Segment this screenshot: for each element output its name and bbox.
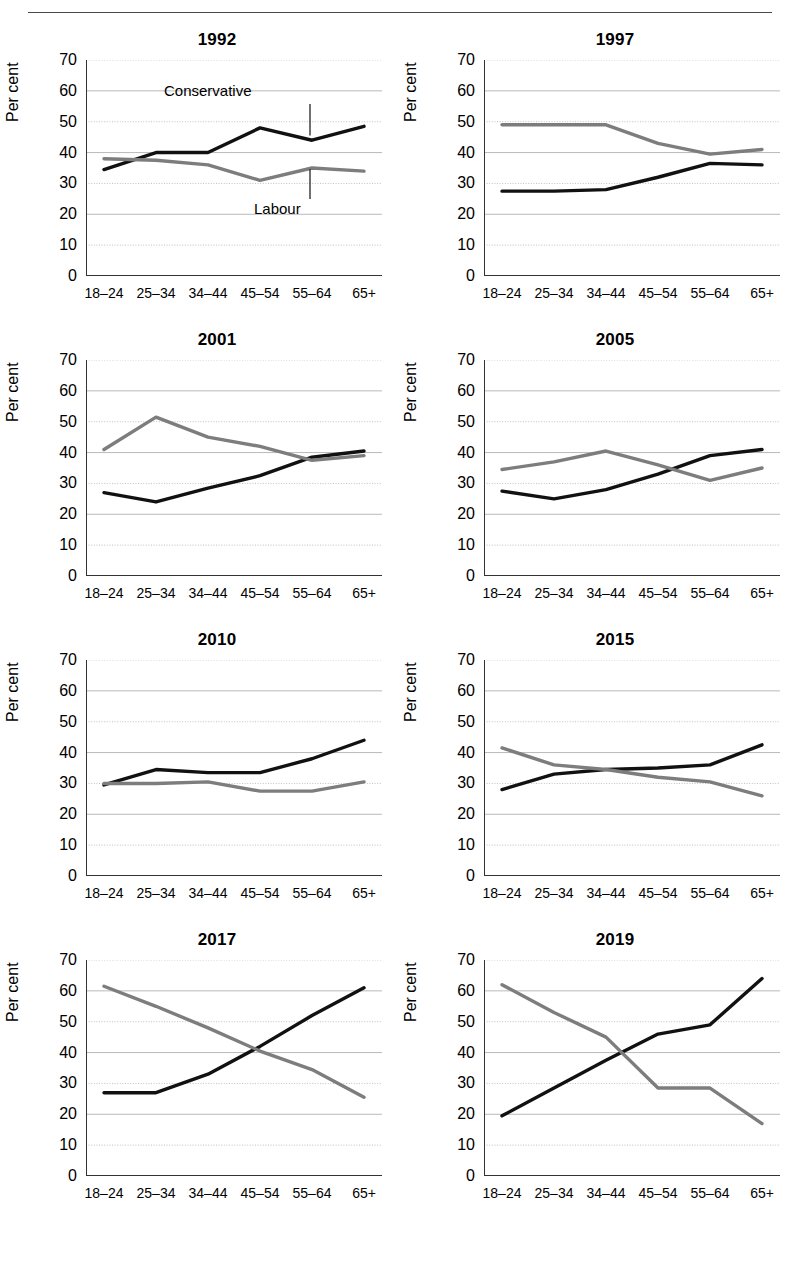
y-tick-label: 30 <box>43 1074 77 1092</box>
y-tick-label: 50 <box>441 1013 475 1031</box>
y-tick-label: 70 <box>43 351 77 369</box>
axis-lines <box>484 960 780 1176</box>
x-tick-label: 34–44 <box>587 885 626 901</box>
chart-page: 1992Per cent01020304050607018–2425–3434–… <box>0 0 796 1274</box>
x-tick-label: 65+ <box>352 285 376 301</box>
plot-svg <box>484 60 780 276</box>
y-tick-label: 0 <box>441 1167 475 1185</box>
series-line-labour <box>104 417 364 460</box>
chart-panel-2019: 2019Per cent01020304050607018–2425–3434–… <box>398 922 796 1222</box>
x-tick-label: 18–24 <box>85 885 124 901</box>
plot-area: 01020304050607018–2425–3434–4445–5455–64… <box>484 660 780 876</box>
y-tick-label: 60 <box>441 982 475 1000</box>
y-tick-label: 10 <box>43 1136 77 1154</box>
series-line-labour <box>502 125 762 154</box>
y-axis-label: Per cent <box>402 1000 420 1022</box>
chart-panel-2015: 2015Per cent01020304050607018–2425–3434–… <box>398 622 796 922</box>
x-tick-label: 25–34 <box>535 585 574 601</box>
y-tick-label: 50 <box>43 413 77 431</box>
x-tick-label: 55–64 <box>293 1185 332 1201</box>
y-tick-label: 10 <box>441 1136 475 1154</box>
y-tick-label: 50 <box>43 113 77 131</box>
y-tick-label: 40 <box>43 1044 77 1062</box>
x-tick-label: 34–44 <box>587 285 626 301</box>
series-annotation-conservative: Conservative <box>164 82 252 99</box>
plot-area: 01020304050607018–2425–3434–4445–5455–64… <box>86 660 382 876</box>
y-axis-label: Per cent <box>4 700 22 722</box>
chart-panel-2017: 2017Per cent01020304050607018–2425–3434–… <box>0 922 398 1222</box>
x-tick-label: 55–64 <box>691 285 730 301</box>
x-tick-label: 65+ <box>750 885 774 901</box>
y-tick-label: 40 <box>43 144 77 162</box>
y-tick-label: 60 <box>43 382 77 400</box>
chart-panel-1997: 1997Per cent01020304050607018–2425–3434–… <box>398 22 796 322</box>
plot-svg <box>484 660 780 876</box>
x-tick-label: 34–44 <box>189 285 228 301</box>
y-tick-label: 20 <box>43 205 77 223</box>
x-tick-label: 25–34 <box>535 1185 574 1201</box>
y-tick-label: 70 <box>43 651 77 669</box>
y-tick-label: 0 <box>441 867 475 885</box>
y-tick-label: 40 <box>441 1044 475 1062</box>
axis-lines <box>484 360 780 576</box>
y-axis-label-text: Per cent <box>4 1000 22 1022</box>
series-annotation-labour: Labour <box>254 200 301 217</box>
panel-title: 2017 <box>0 930 398 950</box>
y-tick-label: 50 <box>43 1013 77 1031</box>
axis-lines <box>86 660 382 876</box>
x-tick-label: 65+ <box>352 585 376 601</box>
chart-panel-2005: 2005Per cent01020304050607018–2425–3434–… <box>398 322 796 622</box>
y-tick-label: 60 <box>43 82 77 100</box>
x-tick-label: 25–34 <box>137 585 176 601</box>
chart-panel-2010: 2010Per cent01020304050607018–2425–3434–… <box>0 622 398 922</box>
series-line-labour <box>104 782 364 791</box>
plot-area: 01020304050607018–2425–3434–4445–5455–64… <box>86 60 382 276</box>
x-tick-label: 55–64 <box>293 885 332 901</box>
y-tick-label: 20 <box>43 1105 77 1123</box>
y-tick-label: 60 <box>441 682 475 700</box>
y-axis-label: Per cent <box>402 100 420 122</box>
plot-svg <box>86 660 382 876</box>
y-tick-label: 20 <box>441 205 475 223</box>
panel-title: 2015 <box>398 630 796 650</box>
x-tick-label: 55–64 <box>691 1185 730 1201</box>
x-tick-label: 34–44 <box>189 885 228 901</box>
y-tick-label: 30 <box>441 774 475 792</box>
x-tick-label: 65+ <box>750 1185 774 1201</box>
x-tick-label: 18–24 <box>483 585 522 601</box>
y-tick-label: 60 <box>441 382 475 400</box>
series-line-conservative <box>502 745 762 790</box>
y-tick-label: 30 <box>43 774 77 792</box>
x-tick-label: 65+ <box>352 885 376 901</box>
plot-area: 01020304050607018–2425–3434–4445–5455–64… <box>86 360 382 576</box>
y-tick-label: 50 <box>441 713 475 731</box>
chart-panel-1992: 1992Per cent01020304050607018–2425–3434–… <box>0 22 398 322</box>
x-tick-label: 18–24 <box>85 1185 124 1201</box>
y-axis-label-text: Per cent <box>402 700 420 722</box>
plot-svg <box>484 360 780 576</box>
y-axis-label: Per cent <box>4 400 22 422</box>
y-axis-label: Per cent <box>402 400 420 422</box>
y-tick-label: 30 <box>43 174 77 192</box>
y-tick-label: 50 <box>441 113 475 131</box>
x-tick-label: 45–54 <box>639 1185 678 1201</box>
x-tick-label: 45–54 <box>639 585 678 601</box>
page-top-rule <box>28 12 772 13</box>
y-tick-label: 0 <box>43 867 77 885</box>
y-axis-label-text: Per cent <box>402 1000 420 1022</box>
y-tick-label: 0 <box>441 267 475 285</box>
y-tick-label: 70 <box>43 51 77 69</box>
y-tick-label: 20 <box>441 505 475 523</box>
panel-title: 2019 <box>398 930 796 950</box>
y-tick-label: 10 <box>441 236 475 254</box>
y-tick-label: 0 <box>43 567 77 585</box>
y-tick-label: 50 <box>441 413 475 431</box>
y-tick-label: 30 <box>441 1074 475 1092</box>
axis-lines <box>484 60 780 276</box>
y-tick-label: 40 <box>43 744 77 762</box>
x-tick-label: 65+ <box>750 585 774 601</box>
y-axis-label: Per cent <box>402 700 420 722</box>
x-tick-label: 65+ <box>352 1185 376 1201</box>
x-tick-label: 65+ <box>750 285 774 301</box>
series-line-conservative <box>104 740 364 785</box>
